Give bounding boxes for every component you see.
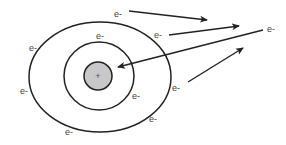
electron-label: e-	[114, 9, 122, 19]
arrow-incoming	[188, 48, 243, 82]
electron-label: e-	[149, 114, 157, 124]
electron-label: e-	[267, 24, 275, 34]
arrow-electron-escaping-1	[129, 11, 207, 20]
electron-label: e-	[154, 30, 162, 40]
nucleus: +	[84, 62, 112, 90]
nucleus-charge-label: +	[95, 71, 100, 81]
electron-label: e-	[96, 31, 104, 41]
electron-label: e-	[132, 91, 140, 101]
electron-label: e-	[20, 86, 28, 96]
atom-diagram: + e-e-e-e-e-e-e-e-e-e-	[0, 0, 286, 145]
electron-label: e-	[65, 127, 73, 137]
arrow-electron-escaping-2	[169, 26, 239, 35]
arrows	[118, 11, 263, 82]
electron-label: e-	[172, 83, 180, 93]
electron-label: e-	[29, 43, 37, 53]
